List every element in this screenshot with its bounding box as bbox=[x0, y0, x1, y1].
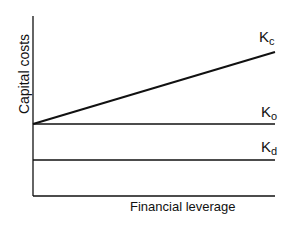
chart-plot bbox=[0, 0, 294, 227]
kc-label: Kc bbox=[259, 29, 275, 44]
kd-label-sub: d bbox=[271, 145, 277, 157]
kc-label-sub: c bbox=[269, 35, 275, 47]
x-axis-label: Financial leverage bbox=[130, 200, 236, 213]
ko-label: Ko bbox=[261, 104, 277, 119]
x-axis-label-text: Financial leverage bbox=[130, 199, 236, 214]
kc-line bbox=[33, 52, 275, 124]
y-axis-label: Capital costs bbox=[17, 34, 31, 114]
kd-label: Kd bbox=[261, 139, 277, 154]
y-axis-label-text: Capital costs bbox=[16, 34, 32, 114]
ko-label-main: K bbox=[261, 103, 271, 120]
ko-label-sub: o bbox=[271, 110, 277, 122]
kc-label-main: K bbox=[259, 28, 269, 45]
kd-label-main: K bbox=[261, 138, 271, 155]
